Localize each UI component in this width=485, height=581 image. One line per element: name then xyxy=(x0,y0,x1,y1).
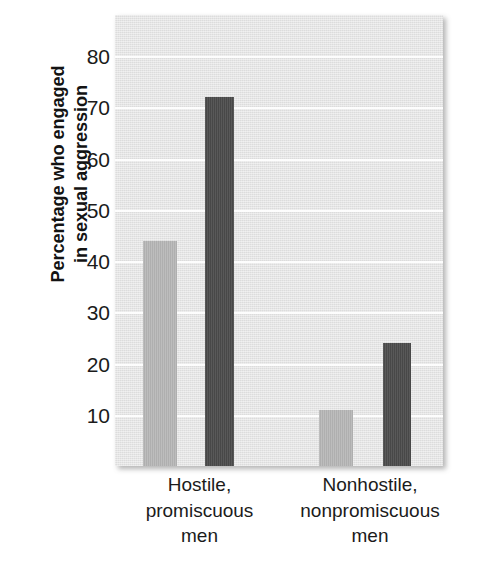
bar-texture xyxy=(205,97,234,466)
y-tick-label-50: 50 xyxy=(60,199,110,220)
x-group-label-1-line-3: men xyxy=(265,523,475,549)
bar-dark-bar-series-group-0 xyxy=(205,97,234,466)
bar-dark-bar-series-group-1 xyxy=(383,343,411,466)
y-tick-label-80: 80 xyxy=(60,46,110,67)
gridline-70 xyxy=(115,107,443,109)
y-tick-label-40: 40 xyxy=(60,251,110,272)
x-group-label-1-line-2: nonpromiscuous xyxy=(265,498,475,524)
gridline-50 xyxy=(115,210,443,212)
plot-area xyxy=(115,15,443,466)
x-group-label-nonhostile-nonpromiscuous-men: Nonhostile, nonpromiscuous men xyxy=(265,472,475,549)
y-tick-label-30: 30 xyxy=(60,302,110,323)
y-tick-label-70: 70 xyxy=(60,97,110,118)
bar-light-bar-series-group-1 xyxy=(319,410,353,466)
gridline-80 xyxy=(115,56,443,58)
bar-chart-figure: Percentage who engaged in sexual aggress… xyxy=(0,0,485,581)
y-tick-label-60: 60 xyxy=(60,148,110,169)
bar-texture xyxy=(319,410,353,466)
y-tick-label-20: 20 xyxy=(60,353,110,374)
x-axis-tick-labels: Hostile, promiscuous men Nonhostile, non… xyxy=(115,472,443,562)
bar-texture xyxy=(143,241,177,467)
x-group-label-1-line-1: Nonhostile, xyxy=(265,472,475,498)
y-tick-label-10: 10 xyxy=(60,404,110,425)
bar-texture xyxy=(383,343,411,466)
gridline-60 xyxy=(115,159,443,161)
bar-light-bar-series-group-0 xyxy=(143,241,177,467)
